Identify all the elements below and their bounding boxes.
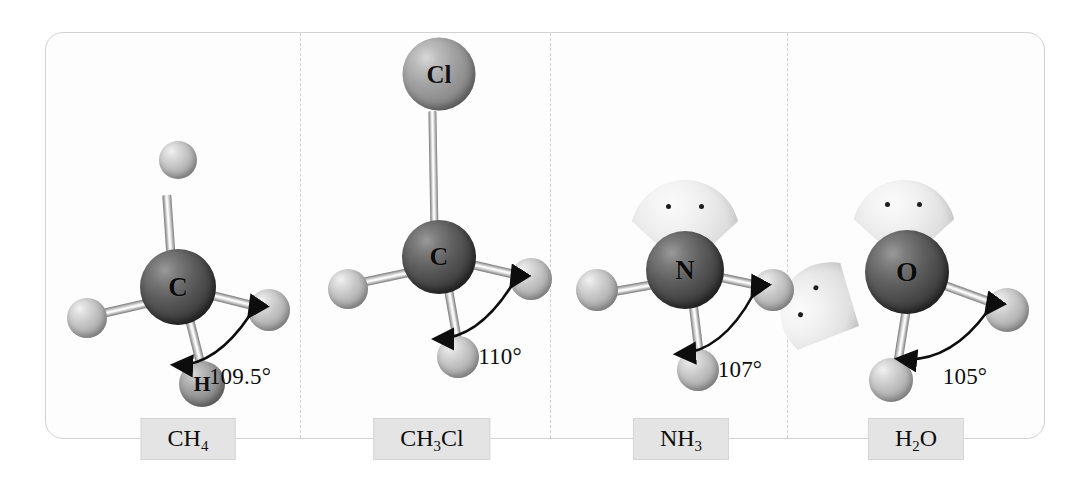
angle-label-nh3: 107° — [718, 357, 763, 383]
panel-h2o: O 105° — [787, 32, 1045, 439]
molecular-geometry-figure: H C — [0, 0, 1077, 487]
formula-chip-ch4: CH4 — [141, 418, 236, 460]
angle-arc-ch3cl — [300, 32, 550, 439]
panel-ch3cl: Cl C — [300, 32, 550, 439]
formula-chip-nh3: NH3 — [633, 418, 729, 460]
angle-label-h2o: 105° — [943, 364, 988, 390]
angle-arc-h2o — [787, 32, 1045, 439]
angle-label-ch3cl: 110° — [478, 344, 522, 370]
angle-label-ch4: 109.5° — [209, 364, 271, 390]
molecule-ch4: H C — [45, 32, 300, 439]
panel-nh3: N 107° — [550, 32, 787, 439]
molecule-h2o: O 105° — [787, 32, 1045, 439]
molecule-ch3cl: Cl C — [300, 32, 550, 439]
formula-chip-ch3cl: CH3Cl — [373, 418, 490, 460]
molecule-nh3: N 107° — [550, 32, 787, 439]
panel-ch4: H C — [45, 32, 300, 439]
formula-chip-h2o: H2O — [868, 418, 964, 460]
